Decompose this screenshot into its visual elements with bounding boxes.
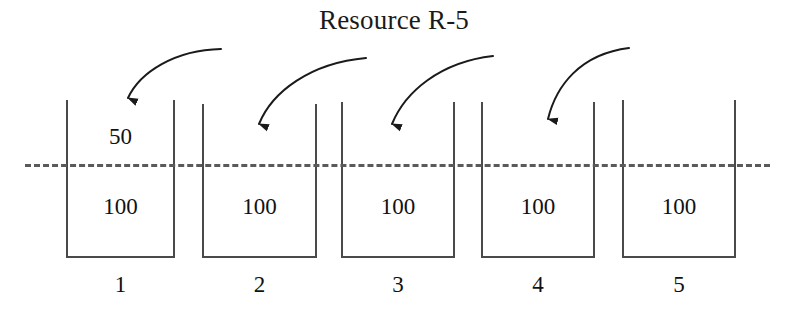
bin-3 [341, 102, 455, 258]
bin-2-base-amount: 100 [202, 194, 317, 220]
bin-5-base-amount: 100 [622, 194, 736, 220]
bin-2 [202, 104, 317, 258]
bin-4 [481, 102, 595, 258]
page-title: Resource R-5 [0, 4, 788, 36]
bin-label-4: 4 [481, 272, 595, 298]
threshold-dashed-line [25, 164, 770, 167]
bin-label-5: 5 [622, 272, 736, 298]
arrow-to-bin-1 [128, 49, 221, 98]
bin-label-1: 1 [66, 272, 175, 298]
bin-4-base-amount: 100 [481, 194, 595, 220]
bin-1-base-amount: 100 [66, 194, 175, 220]
bin-1-incoming-amount: 50 [66, 124, 175, 150]
bin-label-2: 2 [202, 272, 317, 298]
resource-allocation-diagram: Resource R-5 5010011002100310041005 [0, 0, 788, 323]
bin-5 [622, 100, 736, 258]
bin-label-3: 3 [341, 272, 455, 298]
bin-3-base-amount: 100 [341, 194, 455, 220]
